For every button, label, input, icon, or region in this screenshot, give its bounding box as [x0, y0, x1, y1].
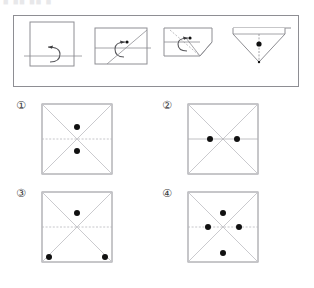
option-1-figure — [38, 98, 118, 180]
option-3[interactable]: ③ — [12, 186, 144, 274]
fold-step-1 — [22, 16, 86, 72]
punched-hole-icon — [256, 41, 261, 46]
header-text: ■ ■■ ■■ ■ — [3, 0, 52, 7]
option-2[interactable]: ② — [158, 98, 290, 186]
option-2-figure — [184, 98, 264, 180]
fold-sequence-panel — [13, 15, 299, 87]
fold-step-2 — [91, 16, 155, 72]
option-4-figure — [184, 186, 264, 268]
option-1[interactable]: ① — [12, 98, 144, 186]
option-1-numeral: ① — [16, 100, 26, 111]
option-3-figure — [38, 186, 118, 268]
fold-step-3 — [160, 16, 224, 72]
paper-folding-question-page: ■ ■■ ■■ ■ — [0, 0, 314, 288]
option-4[interactable]: ④ — [158, 186, 290, 274]
answer-options: ① ② — [0, 98, 314, 288]
option-2-numeral: ② — [162, 100, 172, 111]
cropped-header-strip: ■ ■■ ■■ ■ — [0, 0, 314, 9]
option-4-numeral: ④ — [162, 188, 172, 199]
option-3-numeral: ③ — [16, 188, 26, 199]
fold-step-4 — [229, 16, 293, 72]
